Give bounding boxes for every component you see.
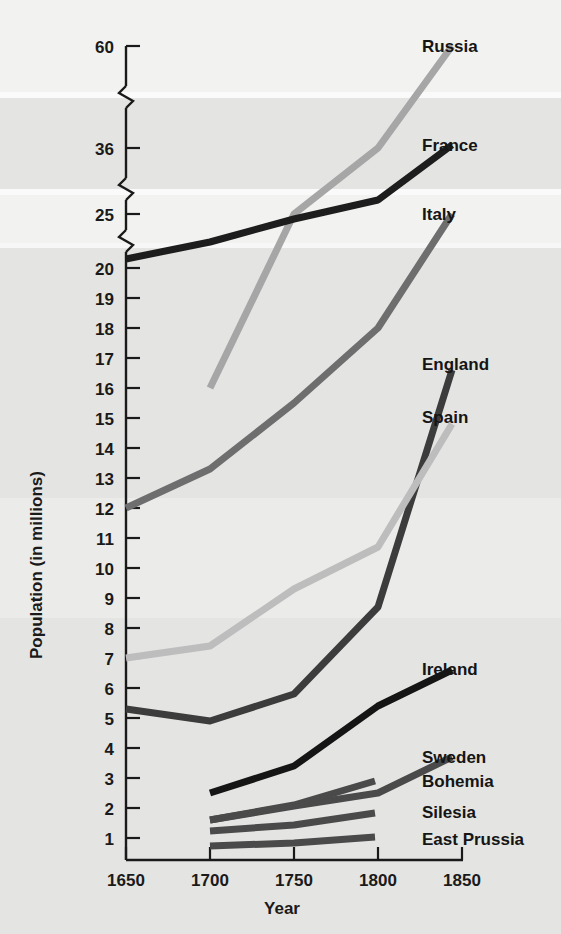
y-tick-label-2: 2 <box>105 800 114 819</box>
y-tick-label-36: 36 <box>95 140 114 159</box>
y-tick-label-4: 4 <box>105 740 115 759</box>
x-tick-label-1650: 1650 <box>107 871 145 890</box>
y-tick-label-12: 12 <box>95 500 114 519</box>
y-tick-label-14: 14 <box>95 440 114 459</box>
y-tick-label-16: 16 <box>95 380 114 399</box>
x-tick-label-1700: 1700 <box>191 871 229 890</box>
y-tick-marks <box>126 46 140 838</box>
y-axis-break-25-20 <box>119 230 133 252</box>
x-tick-label-1750: 1750 <box>275 871 313 890</box>
y-axis-break-60-36 <box>119 86 133 108</box>
y-tick-label-19: 19 <box>95 290 114 309</box>
y-tick-label-20: 20 <box>95 260 114 279</box>
y-tick-label-1: 1 <box>105 830 114 849</box>
y-axis <box>119 46 133 860</box>
x-axis <box>126 847 463 860</box>
series-label-ireland: Ireland <box>422 660 478 679</box>
y-tick-label-5: 5 <box>105 710 114 729</box>
y-tick-label-6: 6 <box>105 680 114 699</box>
series-line-italy <box>126 214 452 508</box>
x-tick-label-1850: 1850 <box>443 871 481 890</box>
series-label-italy: Italy <box>422 205 457 224</box>
series-line-east-prussia <box>210 837 375 846</box>
y-tick-labels: 60 36 25 20 19 18 17 16 15 14 13 12 11 1… <box>95 38 114 849</box>
x-tick-label-1800: 1800 <box>359 871 397 890</box>
series-label-england: England <box>422 355 489 374</box>
y-tick-label-11: 11 <box>96 530 114 549</box>
y-tick-label-13: 13 <box>95 470 114 489</box>
series-line-france <box>126 145 452 259</box>
y-tick-label-10: 10 <box>95 560 114 579</box>
y-axis-break-36-25 <box>119 178 133 200</box>
series-line-russia <box>210 46 452 388</box>
x-tick-labels: 1650 1700 1750 1800 1850 <box>107 871 481 890</box>
y-tick-label-3: 3 <box>105 770 114 789</box>
series-label-france: France <box>422 136 478 155</box>
chart-figure: 60 36 25 20 19 18 17 16 15 14 13 12 11 1… <box>0 0 561 934</box>
series-line-spain <box>126 424 452 658</box>
y-tick-label-60: 60 <box>95 38 114 57</box>
y-axis-title: Population (in millions) <box>27 471 46 659</box>
y-tick-label-17: 17 <box>95 350 114 369</box>
y-tick-label-9: 9 <box>105 590 114 609</box>
y-tick-label-7: 7 <box>105 650 114 669</box>
series-label-east-prussia: East Prussia <box>422 830 525 849</box>
series-label-spain: Spain <box>422 408 468 427</box>
series-label-silesia: Silesia <box>422 803 476 822</box>
y-tick-label-25: 25 <box>95 206 114 225</box>
population-line-chart: 60 36 25 20 19 18 17 16 15 14 13 12 11 1… <box>0 0 561 934</box>
y-tick-label-8: 8 <box>105 620 114 639</box>
series-lines <box>126 46 452 846</box>
series-label-russia: Russia <box>422 37 478 56</box>
series-label-sweden: Sweden <box>422 748 486 767</box>
series-line-england <box>126 370 452 721</box>
x-axis-title: Year <box>264 899 300 918</box>
y-tick-label-18: 18 <box>95 320 114 339</box>
y-tick-label-15: 15 <box>95 410 114 429</box>
series-label-bohemia: Bohemia <box>422 772 494 791</box>
